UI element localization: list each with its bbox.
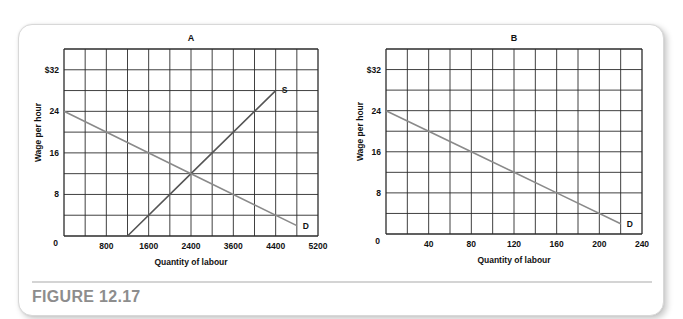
chart-a: A081624$3280016002400360044005200Quantit… [33,33,328,267]
y-tick-label: 16 [50,148,60,158]
y-tick-label: 24 [372,106,382,116]
y-tick-label: 16 [372,147,382,157]
y-tick-label: $32 [367,65,381,75]
chart-b: B081624$324080120160200240Quantity of la… [355,33,649,265]
x-tick-label: 160 [550,239,564,249]
x-tick-label: 240 [635,239,649,249]
supply-curve [128,91,276,236]
x-tick-label: 800 [99,241,113,251]
y-axis-label: Wage per hour [355,101,365,161]
caption-divider [32,281,652,283]
y-axis-label: Wage per hour [33,102,43,162]
x-tick-label: 200 [592,239,606,249]
chart-title: A [188,33,195,43]
y-tick-label: 0 [375,236,380,246]
y-tick-label: 0 [53,238,58,248]
y-tick-label: 8 [376,188,381,198]
grid [386,49,642,234]
x-tick-label: 5200 [309,241,328,251]
demand-curve [64,111,297,225]
x-tick-label: 80 [467,239,477,249]
x-tick-label: 4400 [266,241,285,251]
y-tick-label: 8 [54,189,59,199]
x-axis-label: Quantity of labour [477,255,551,265]
figure-label: FIGURE 12.17 [32,288,141,306]
supply-label: S [282,85,288,95]
x-tick-label: 1600 [139,241,158,251]
x-tick-label: 120 [507,239,521,249]
chart-title: B [511,33,518,43]
x-axis-label: Quantity of labour [154,257,228,267]
demand-curve [386,111,621,224]
figure-plots: A081624$3280016002400360044005200Quantit… [0,0,683,319]
x-tick-label: 40 [424,239,434,249]
x-tick-label: 2400 [182,241,201,251]
demand-label: D [303,221,309,231]
x-tick-label: 3600 [224,241,243,251]
y-tick-label: $32 [45,65,59,75]
y-tick-label: 24 [50,106,60,116]
demand-label: D [627,219,633,229]
grid [64,49,318,236]
